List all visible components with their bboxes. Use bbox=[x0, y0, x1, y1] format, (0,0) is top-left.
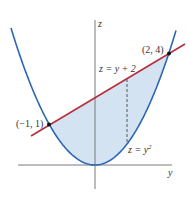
point-label-left: (−1, 1) bbox=[16, 118, 43, 130]
intersection-point-right bbox=[167, 52, 171, 56]
y-axis-label: y bbox=[167, 167, 173, 178]
point-label-right: (2, 4) bbox=[142, 44, 164, 56]
intersection-point-left bbox=[47, 123, 51, 127]
parabola-label-exponent: 2 bbox=[148, 143, 152, 151]
line-equation-label: z = y + 2 bbox=[98, 63, 136, 74]
z-axis-label: z bbox=[97, 18, 102, 29]
parabola-label-base: z = y bbox=[127, 144, 149, 155]
region-diagram: z y (2, 4) (−1, 1) z = y + 2 z = y2 bbox=[0, 0, 189, 199]
parabola-equation-label: z = y2 bbox=[127, 143, 152, 155]
